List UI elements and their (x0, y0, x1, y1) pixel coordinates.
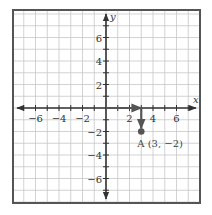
x-tick-label: −4 (52, 113, 67, 124)
axes (17, 14, 196, 199)
y-tick-label: −2 (87, 127, 102, 138)
translation-arrows (106, 108, 141, 129)
x-tick-label: 2 (126, 113, 132, 124)
x-tick-label: 4 (150, 113, 156, 124)
point-label: A (3, −2) (136, 138, 183, 149)
x-tick-label: −2 (75, 113, 90, 124)
y-tick-label: 4 (96, 56, 102, 67)
x-tick-label: −6 (28, 113, 43, 124)
point-a (138, 128, 145, 135)
coordinate-plane: −6−4−2246642−2−4−6 A (3, −2) x y (0, 0, 212, 215)
y-tick-label: −6 (87, 174, 102, 185)
x-axis-label: x (193, 94, 199, 105)
y-axis-label: y (109, 11, 116, 22)
y-tick-label: 2 (96, 80, 102, 91)
x-tick-label: 6 (173, 113, 179, 124)
y-tick-label: −4 (87, 150, 102, 161)
y-tick-label: 6 (96, 33, 102, 44)
